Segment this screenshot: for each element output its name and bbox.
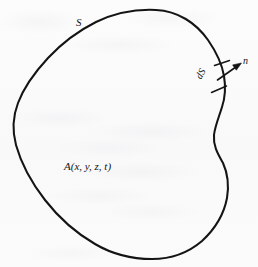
closed-surface-diagram-svg xyxy=(0,0,258,267)
surface-boundary-curve xyxy=(14,10,228,259)
normal-vector-label-n: n xyxy=(243,56,248,66)
vector-field-label-A: A(x, y, z, t) xyxy=(64,161,111,172)
surface-label-S: S xyxy=(76,17,82,28)
figure-container: S n dS A(x, y, z, t) xyxy=(0,0,258,267)
